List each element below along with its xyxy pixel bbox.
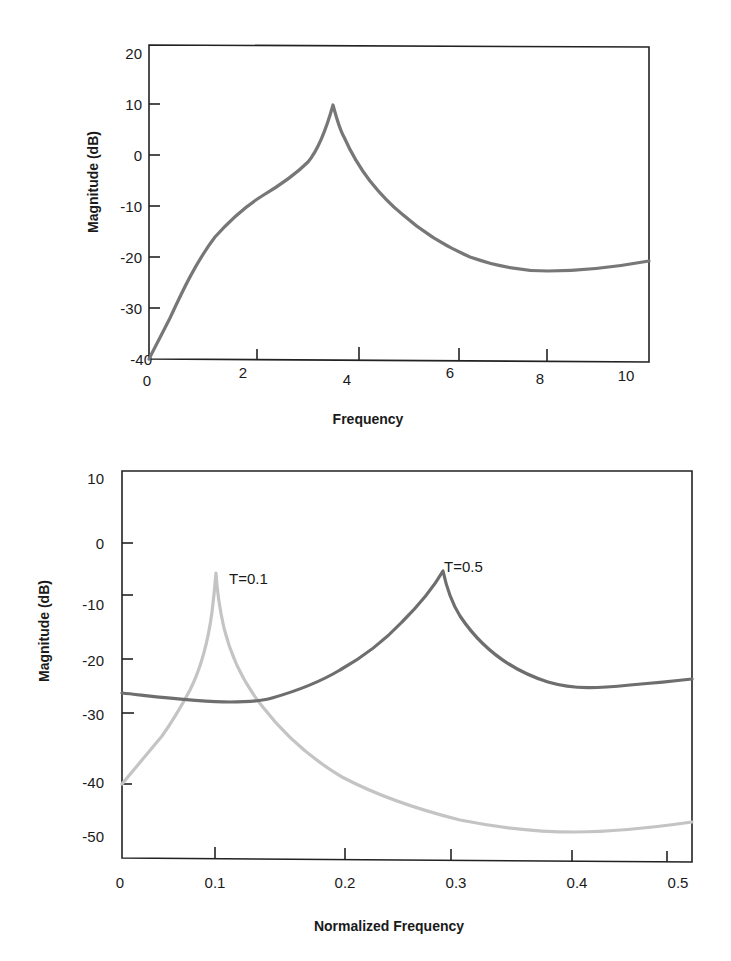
top-chart: 20 10 0 -10 -20 -30 -40 0 2 4 6 8 10 Fre… [85,45,649,427]
bottom-y-ticks [122,543,134,784]
top-x-tick-labels: 0 2 4 6 8 10 [143,364,635,389]
top-chart-frame [149,45,649,362]
bottom-x-tick-label: 0 [116,874,124,891]
top-x-tick-label: 2 [239,364,247,381]
bottom-x-tick-label: 0.5 [668,874,689,891]
annotation-t-0-5: T=0.5 [444,558,483,575]
bottom-y-tick-label: -10 [82,596,104,613]
bottom-x-tick-label: 0.4 [567,874,588,891]
top-y-tick-label: 10 [125,96,142,113]
bottom-chart: 10 0 -10 -20 -30 -40 -50 0 0.1 0.2 0.3 0… [36,470,692,934]
top-x-tick-label: 8 [536,370,544,387]
top-x-tick-label: 4 [343,371,351,388]
top-y-tick-label: -10 [120,198,142,215]
top-response-curve [149,105,649,359]
top-x-axis-title: Frequency [333,411,404,427]
top-y-tick-label: 0 [134,147,142,164]
bottom-x-tick-label: 0.2 [335,874,356,891]
top-x-tick-label: 6 [446,364,454,381]
top-y-ticks [149,104,160,308]
bottom-y-tick-label: -40 [82,774,104,791]
bottom-x-tick-label: 0.1 [205,874,226,891]
figure: 20 10 0 -10 -20 -30 -40 0 2 4 6 8 10 Fre… [0,0,731,961]
bottom-y-axis-title: Magnitude (dB) [36,580,52,682]
bottom-y-tick-label: 0 [96,535,104,552]
top-y-tick-label: 20 [125,45,142,62]
bottom-x-tick-labels: 0 0.1 0.2 0.3 0.4 0.5 [116,874,689,891]
annotation-t-0-1: T=0.1 [229,570,268,587]
top-y-axis-title: Magnitude (dB) [85,131,101,233]
top-y-tick-label: -30 [120,300,142,317]
bottom-y-tick-label: -20 [82,652,104,669]
top-x-tick-label: 10 [618,367,635,384]
bottom-x-axis-title: Normalized Frequency [314,918,464,934]
top-y-tick-labels: 20 10 0 -10 -20 -30 -40 [120,45,152,368]
bottom-y-tick-label: -30 [82,706,104,723]
top-x-tick-label: 0 [143,372,151,389]
bottom-y-tick-labels: 10 0 -10 -20 -30 -40 -50 [82,470,104,845]
bottom-y-tick-label: -50 [82,828,104,845]
top-x-ticks [257,347,547,361]
top-y-tick-label: -20 [120,249,142,266]
bottom-x-tick-label: 0.3 [446,874,467,891]
bottom-y-tick-label: 10 [87,470,104,487]
